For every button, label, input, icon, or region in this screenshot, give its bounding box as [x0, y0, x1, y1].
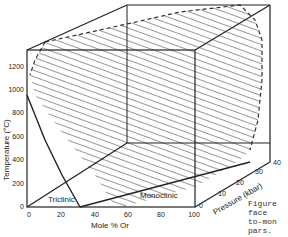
- svg-text:600: 600: [12, 133, 24, 140]
- svg-text:30: 30: [255, 168, 263, 175]
- svg-text:40: 40: [91, 211, 99, 218]
- figure-caption-fragment: Figure face to-mon pars.: [248, 199, 277, 235]
- svg-text:10: 10: [218, 190, 226, 197]
- svg-text:0: 0: [199, 202, 203, 209]
- triclinic-label: Triclinic: [48, 195, 75, 204]
- monoclinic-field-surface: [30, 5, 262, 207]
- phase-diagram: 0 200 400 600 800 1000 1200 Temperature …: [0, 0, 288, 237]
- svg-text:800: 800: [12, 109, 24, 116]
- svg-text:0: 0: [27, 211, 31, 218]
- temperature-axis-label: Temperature (°C): [2, 119, 11, 181]
- svg-text:40: 40: [273, 159, 281, 166]
- svg-text:20: 20: [236, 179, 244, 186]
- svg-text:400: 400: [12, 156, 24, 163]
- svg-text:60: 60: [124, 211, 132, 218]
- svg-text:80: 80: [157, 211, 165, 218]
- svg-text:0: 0: [20, 203, 24, 210]
- svg-text:100: 100: [188, 211, 200, 218]
- svg-text:1200: 1200: [8, 63, 24, 70]
- mole-or-axis-label: Mole % Or: [91, 221, 129, 230]
- mole-or-ticks: 0 20 40 60 80 100: [27, 211, 200, 218]
- svg-text:200: 200: [12, 180, 24, 187]
- monoclinic-label: Monoclinic: [140, 191, 178, 200]
- svg-text:1000: 1000: [8, 86, 24, 93]
- svg-text:20: 20: [57, 211, 65, 218]
